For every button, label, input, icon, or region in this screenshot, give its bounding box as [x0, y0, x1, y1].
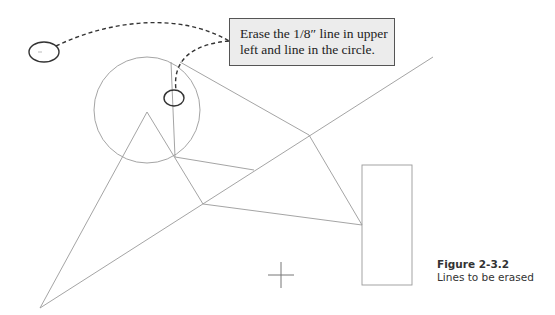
callout-line-1: Erase the 1/8″ line in upper [240, 26, 394, 42]
lower-edge[interactable] [203, 204, 362, 225]
upper-right-edge[interactable] [180, 62, 309, 135]
large-circle[interactable] [94, 57, 200, 163]
figure-label: Figure 2-3.2 [437, 258, 534, 271]
upper-left-marker-ellipse [29, 42, 59, 62]
callout-line-2: left and line in the circle. [240, 42, 394, 58]
figure-caption: Figure 2-3.2 Lines to be erased [437, 258, 534, 284]
crosshair-cursor-icon [268, 262, 294, 288]
leader-line-circle [176, 41, 229, 90]
leader-line-upper-left [56, 23, 229, 46]
vertical-line-in-circle[interactable] [171, 62, 175, 157]
rectangle[interactable] [362, 165, 412, 285]
triangle-left-edge[interactable] [40, 112, 147, 308]
triangle-right-edge[interactable] [147, 112, 203, 204]
callout-box: Erase the 1/8″ line in upper left and li… [229, 18, 395, 66]
right-down-edge[interactable] [309, 135, 362, 225]
figure-description: Lines to be erased [437, 271, 534, 284]
circle-marker-ellipse [164, 90, 184, 106]
inner-short-line[interactable] [175, 157, 254, 170]
long-diagonal-line[interactable] [40, 57, 433, 308]
